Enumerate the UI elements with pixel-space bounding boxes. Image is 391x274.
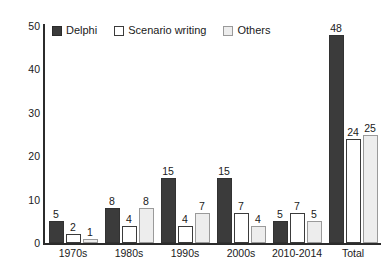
bar: [217, 178, 232, 243]
bar: [234, 213, 249, 243]
bar: [346, 139, 361, 243]
bar-value-label: 15: [214, 166, 235, 176]
bar-group: 1574: [217, 26, 266, 243]
x-category-label: 1980s: [101, 247, 157, 259]
bar-value-label: 25: [360, 123, 381, 133]
bar-value-label: 5: [46, 209, 67, 219]
bar: [83, 239, 98, 243]
bar-value-label: 8: [136, 196, 157, 206]
y-tick-label: 30: [14, 108, 40, 118]
bar: [66, 234, 81, 243]
bar: [273, 221, 288, 243]
bar-group: 482425: [329, 26, 378, 243]
bar-group: 848: [105, 26, 154, 243]
x-category-label: 2000s: [213, 247, 269, 259]
bar-value-label: 1: [80, 227, 101, 237]
y-tick-label: 40: [14, 64, 40, 74]
y-tick-label: 0: [14, 238, 40, 248]
bar: [49, 221, 64, 243]
bar: [122, 226, 137, 243]
x-axis-line: [43, 243, 381, 245]
bar-value-label: 15: [158, 166, 179, 176]
bar-value-label: 5: [270, 209, 291, 219]
bar: [251, 226, 266, 243]
y-axis-tick-labels: 01020304050: [0, 0, 40, 274]
x-category-label: 1970s: [45, 247, 101, 259]
bar-group: 575: [273, 26, 322, 243]
bar-group: 1547: [161, 26, 210, 243]
bar-value-label: 5: [304, 209, 325, 219]
bar: [105, 208, 120, 243]
bar: [161, 178, 176, 243]
x-category-label: 1990s: [157, 247, 213, 259]
plot-area: 52184815471574575482425: [45, 26, 381, 243]
bar: [329, 35, 344, 243]
bar-group: 521: [49, 26, 98, 243]
y-tick-label: 50: [14, 21, 40, 31]
bar-chart: 01020304050 DelphiScenario writingOthers…: [0, 0, 391, 274]
bar: [178, 226, 193, 243]
bar-value-label: 7: [231, 201, 252, 211]
x-category-label: Total: [325, 247, 381, 259]
bar: [139, 208, 154, 243]
y-tick-label: 10: [14, 195, 40, 205]
x-category-label: 2010-2014: [269, 247, 325, 259]
x-axis-category-labels: 1970s1980s1990s2000s2010-2014Total: [45, 247, 381, 267]
bar: [195, 213, 210, 243]
bar: [363, 135, 378, 244]
bar: [307, 221, 322, 243]
bar-value-label: 48: [326, 23, 347, 33]
y-tick-label: 20: [14, 151, 40, 161]
bar-value-label: 4: [248, 214, 269, 224]
bar-value-label: 4: [119, 214, 140, 224]
bar-value-label: 4: [175, 214, 196, 224]
bar-value-label: 7: [192, 201, 213, 211]
bar-value-label: 8: [102, 196, 123, 206]
bar: [290, 213, 305, 243]
